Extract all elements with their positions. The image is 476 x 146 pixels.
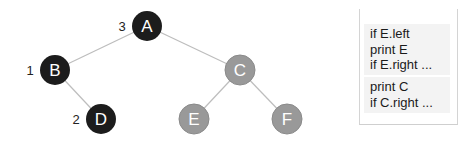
tree-node-c: C [225, 55, 255, 85]
visit-order-label: 1 [26, 63, 33, 78]
code-line: if C.right ... [370, 95, 450, 111]
tree-node-b: B1 [26, 55, 70, 85]
stack-frame-e: if E.left print E if E.right ... [364, 24, 450, 75]
call-stack-panel: if E.left print E if E.right ... print C… [359, 9, 458, 125]
stack-frame-c: print C if C.right ... [364, 77, 450, 113]
tree-node-e: E [179, 104, 209, 134]
node-label: C [234, 61, 246, 80]
code-line: print E [370, 42, 450, 58]
node-label: D [95, 110, 107, 129]
node-label: B [49, 61, 60, 80]
code-line: if E.right ... [370, 57, 450, 73]
node-label: F [282, 110, 292, 129]
tree-nodes: A3B1CD2EF [26, 11, 302, 134]
edge-a-b [55, 26, 147, 70]
visit-order-label: 2 [72, 112, 79, 127]
node-label: E [188, 110, 199, 129]
tree-node-d: D2 [72, 104, 116, 134]
binary-tree-diagram: A3B1CD2EF [0, 0, 350, 146]
tree-node-f: F [272, 104, 302, 134]
code-line: print C [370, 79, 450, 95]
node-label: A [141, 17, 153, 36]
code-line: if E.left [370, 26, 450, 42]
visit-order-label: 3 [118, 19, 125, 34]
